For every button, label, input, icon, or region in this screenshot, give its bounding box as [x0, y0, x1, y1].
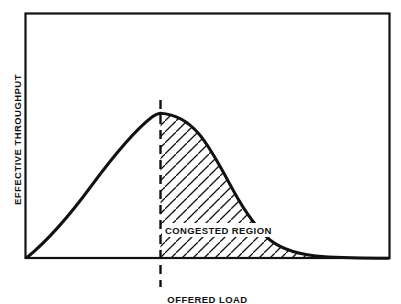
congested-region-label: CONGESTED REGION — [165, 225, 272, 236]
y-axis-title: EFFECTIVE THROUGHPUT — [12, 74, 23, 205]
x-axis-title: OFFERED LOAD — [167, 294, 247, 304]
congested-region-annotation: CONGESTED REGION — [162, 223, 272, 237]
chart-figure: CONGESTED REGION EFFECTIVE THROUGHPUT OF… — [0, 0, 401, 304]
throughput-curve-chart: CONGESTED REGION EFFECTIVE THROUGHPUT OF… — [0, 0, 401, 304]
